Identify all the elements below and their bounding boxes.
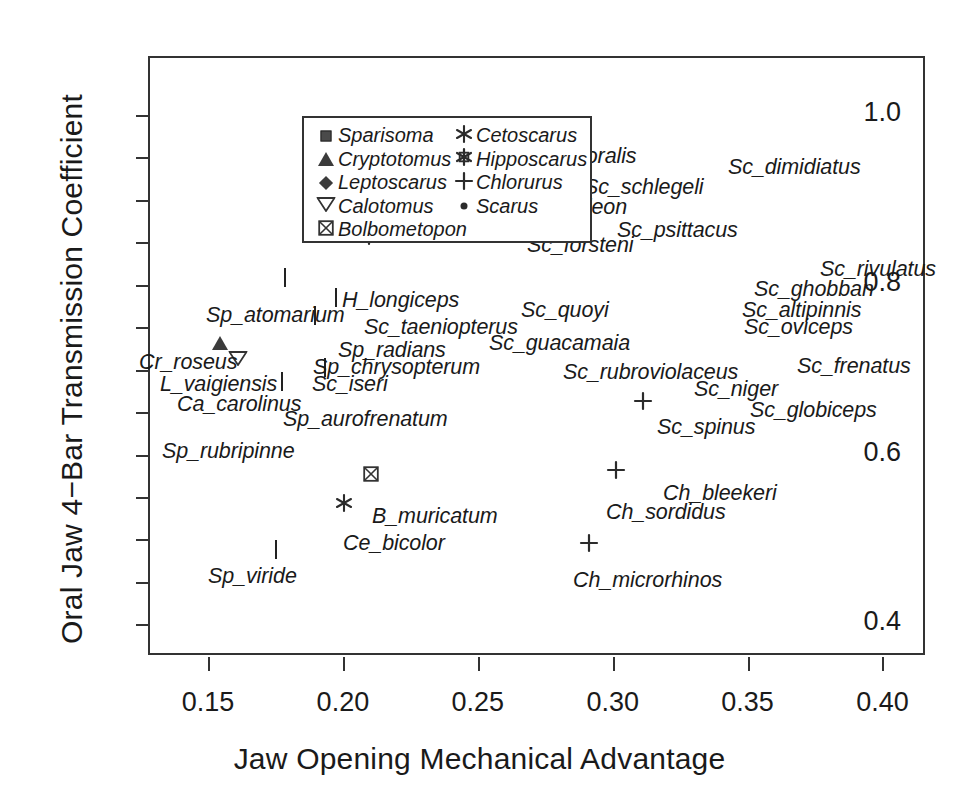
x-axis-tick-label: 0.40 <box>822 687 942 718</box>
legend-item: Cetoscarus <box>452 124 587 148</box>
data-point-label: Sc_quoyi <box>521 298 609 323</box>
marker-sparisoma-icon <box>284 268 286 287</box>
x-axis-tick <box>748 657 750 671</box>
legend-label: Cetoscarus <box>476 124 577 147</box>
y-axis-tick <box>136 582 150 584</box>
x-axis-title: Jaw Opening Mechanical Advantage <box>0 742 959 776</box>
marker-bolbometopon-icon <box>363 468 379 485</box>
data-point-label: Sp_aurofrenatum <box>283 407 448 432</box>
data-point-label: B_muricatum <box>372 504 498 529</box>
marker-cetoscarus-icon <box>334 499 354 516</box>
y-axis-tick <box>136 624 150 626</box>
y-axis-tick <box>136 200 150 202</box>
x-axis-tick-label: 0.15 <box>148 687 268 718</box>
chart-root: Oral Jaw 4−Bar Transmission Coefficient … <box>0 0 959 797</box>
data-point[interactable] <box>281 373 283 391</box>
data-point-label: Sc_psittacus <box>617 218 738 243</box>
x-axis-tick-label: 0.20 <box>283 687 403 718</box>
marker-cetoscarus-icon <box>454 124 474 148</box>
y-axis-tick <box>136 115 150 117</box>
x-axis-tick-label: 0.30 <box>553 687 673 718</box>
data-point[interactable] <box>334 493 354 517</box>
y-axis-tick <box>136 242 150 244</box>
legend-marker <box>452 171 476 195</box>
data-point-label: Sc_spinus <box>657 415 755 440</box>
legend-marker <box>452 148 476 172</box>
marker-leptoscarus-icon <box>319 176 333 190</box>
data-point[interactable] <box>363 466 379 486</box>
marker-sparisoma-icon <box>275 540 277 559</box>
y-axis-tick <box>136 157 150 159</box>
x-axis-tick <box>343 657 345 671</box>
legend-label: Cryptotomus <box>338 148 451 171</box>
data-point-label: Sc_oviceps <box>744 315 853 340</box>
legend-item: Calotomus <box>314 195 467 219</box>
legend-label: Hipposcarus <box>476 148 587 171</box>
data-point[interactable] <box>579 533 599 557</box>
data-point-label: Ch_sordidus <box>606 500 726 525</box>
legend-label: Scarus <box>476 195 538 218</box>
data-point-label: Sp_rubripinne <box>162 439 295 464</box>
legend-item: Leptoscarus <box>314 171 467 195</box>
legend-item: Chlorurus <box>452 171 587 195</box>
legend-item: Bolbometopon <box>314 218 467 242</box>
y-axis-tick <box>136 327 150 329</box>
data-point[interactable] <box>275 541 277 559</box>
legend-marker <box>314 218 338 242</box>
data-point-label: Sp_viride <box>208 564 297 589</box>
data-point-label: H_longiceps <box>342 288 459 313</box>
legend-marker <box>452 124 476 148</box>
legend-column-2: CetoscarusHipposcarusChlorurusScarus <box>452 124 587 218</box>
y-axis-tick <box>136 455 150 457</box>
data-point-label: Sc_guacamaia <box>489 331 630 356</box>
x-axis-tick <box>613 657 615 671</box>
x-axis-tick-label: 0.25 <box>418 687 538 718</box>
x-axis-tick <box>882 657 884 671</box>
plot-area: 0.40.60.81.0 0.150.200.250.300.350.40 Sc… <box>148 56 925 655</box>
y-axis-title: Oral Jaw 4−Bar Transmission Coefficient <box>55 59 89 679</box>
data-point-label: Ch_microrhinos <box>573 568 722 593</box>
marker-cryptotomus-icon <box>318 152 334 166</box>
marker-sparisoma-icon <box>321 130 332 141</box>
legend-marker <box>314 171 338 195</box>
marker-hipposcarus-icon <box>455 148 474 171</box>
legend-item: Scarus <box>452 195 587 219</box>
legend-label: Leptoscarus <box>338 171 447 194</box>
legend-marker <box>314 195 338 219</box>
data-point-label: Sc_globiceps <box>750 398 877 423</box>
legend-item: Cryptotomus <box>314 148 467 172</box>
data-point[interactable] <box>633 391 653 415</box>
legend-label: Chlorurus <box>476 171 563 194</box>
legend-label: Calotomus <box>338 195 434 218</box>
x-axis-tick <box>478 657 480 671</box>
y-axis-tick-label: 0.6 <box>863 437 901 468</box>
x-axis-tick <box>208 657 210 671</box>
y-axis-tick <box>136 539 150 541</box>
x-axis-tick-label: 0.35 <box>688 687 808 718</box>
legend-label: Sparisoma <box>338 124 434 147</box>
legend-item: Hipposcarus <box>452 148 587 172</box>
marker-chlorurus-icon <box>633 397 653 414</box>
data-point-label: Sp_atomarium <box>206 303 345 328</box>
legend-marker <box>452 195 476 219</box>
data-point-label: Sc_dimidiatus <box>728 155 861 180</box>
y-axis-tick <box>136 285 150 287</box>
marker-chlorurus-icon <box>579 539 599 556</box>
y-axis-tick-label: 1.0 <box>863 97 901 128</box>
data-point-label: Sc_iseri <box>312 372 388 397</box>
legend-marker <box>314 148 338 172</box>
legend-item: Sparisoma <box>314 124 467 148</box>
data-point[interactable] <box>606 460 626 484</box>
legend-marker <box>314 124 338 148</box>
legend-label: Bolbometopon <box>338 218 467 241</box>
y-axis-tick <box>136 497 150 499</box>
legend: SparisomaCryptotomusLeptoscarusCalotomus… <box>302 116 592 243</box>
y-axis-tick <box>136 412 150 414</box>
data-point-label: Ce_bicolor <box>343 531 445 556</box>
data-point[interactable] <box>284 269 286 287</box>
marker-chlorurus-icon <box>606 466 626 483</box>
marker-scarus-icon <box>461 203 468 210</box>
marker-bolbometopon-icon <box>318 220 334 240</box>
y-axis-tick-label: 0.4 <box>863 606 901 637</box>
marker-sparisoma-icon <box>281 372 283 391</box>
